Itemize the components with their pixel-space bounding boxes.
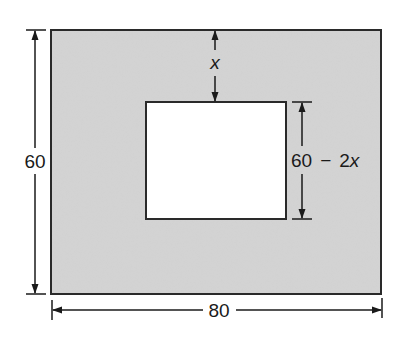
border-width-label: x — [209, 52, 221, 73]
width-dimension-80: 80 — [52, 298, 382, 321]
width-label: 80 — [208, 300, 229, 321]
inner-rectangle — [146, 102, 286, 219]
frame-diagram: 60 x 60−2x 80 — [0, 0, 406, 344]
height-dimension-60: 60 — [24, 30, 48, 294]
height-label: 60 — [24, 151, 45, 172]
inner-height-label: 60−2x — [291, 150, 361, 171]
